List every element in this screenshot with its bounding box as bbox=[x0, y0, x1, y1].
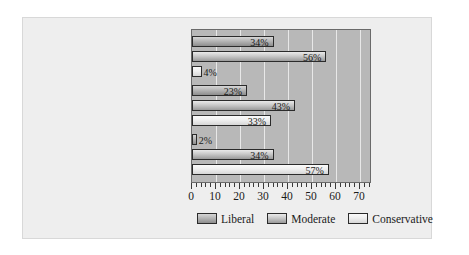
bar-value-label: 34% bbox=[250, 37, 268, 48]
bar-republican-party-activists-liberal: 2% bbox=[192, 134, 197, 145]
axis-tick bbox=[359, 183, 360, 189]
chart-legend: LiberalModerateConservative bbox=[197, 211, 433, 226]
bar-all-voters-conservative: 33% bbox=[192, 115, 271, 126]
axis-tick bbox=[282, 183, 283, 187]
axis-tick bbox=[229, 183, 230, 187]
axis-tick bbox=[258, 183, 259, 187]
axis-tick bbox=[316, 183, 317, 187]
axis-tick bbox=[301, 183, 302, 187]
axis-tick bbox=[234, 183, 235, 187]
axis-tick bbox=[364, 183, 365, 187]
axis-tick bbox=[340, 183, 341, 187]
axis-tick bbox=[210, 183, 211, 187]
axis-tick bbox=[287, 183, 288, 189]
axis-tick bbox=[239, 183, 240, 189]
legend-item-conservative[interactable]: Conservative bbox=[348, 213, 433, 225]
axis-tick bbox=[205, 183, 206, 187]
x-tick-label-0: 0 bbox=[188, 190, 194, 202]
x-tick-label-10: 10 bbox=[209, 190, 221, 202]
axis-tick bbox=[191, 183, 192, 189]
bar-value-label: 23% bbox=[224, 86, 242, 97]
axis-tick bbox=[225, 183, 226, 187]
axis-tick bbox=[349, 183, 350, 187]
bar-all-voters-liberal: 23% bbox=[192, 85, 247, 96]
bar-democratic-party-activists-liberal: 34% bbox=[192, 36, 274, 47]
x-tick-label-40: 40 bbox=[281, 190, 293, 202]
axis-tick bbox=[325, 183, 326, 187]
axis-tick bbox=[244, 183, 245, 187]
axis-tick bbox=[335, 183, 336, 189]
chart-figure: Democratic Party ActivistsAll VotersRepu… bbox=[0, 0, 469, 255]
axis-tick bbox=[253, 183, 254, 187]
axis-tick bbox=[268, 183, 269, 187]
x-tick-label-60: 60 bbox=[329, 190, 341, 202]
legend-swatch-liberal bbox=[197, 213, 217, 224]
bar-democratic-party-activists-moderate: 56% bbox=[192, 51, 326, 62]
axis-tick bbox=[273, 183, 274, 187]
bar-value-label: 34% bbox=[250, 150, 268, 161]
x-tick-label-30: 30 bbox=[257, 190, 269, 202]
axis-tick bbox=[369, 183, 370, 187]
legend-item-liberal[interactable]: Liberal bbox=[197, 213, 254, 225]
bar-value-label: 33% bbox=[248, 116, 266, 127]
plot-area: 34%56%4%23%43%33%2%34%57% bbox=[191, 29, 371, 183]
axis-tick bbox=[220, 183, 221, 187]
axis-tick bbox=[306, 183, 307, 187]
bar-republican-party-activists-conservative: 57% bbox=[192, 164, 329, 175]
bar-value-label: 2% bbox=[199, 135, 212, 146]
bar-value-label: 4% bbox=[204, 67, 217, 78]
x-axis-tick-labels: 010203040506070 bbox=[191, 190, 391, 204]
axis-tick bbox=[321, 183, 322, 187]
axis-tick bbox=[354, 183, 355, 187]
bar-all-voters-moderate: 43% bbox=[192, 100, 295, 111]
x-tick-label-50: 50 bbox=[305, 190, 317, 202]
axis-tick bbox=[201, 183, 202, 187]
legend-label-moderate: Moderate bbox=[291, 213, 335, 225]
category-axis-labels: Democratic Party ActivistsAll VotersRepu… bbox=[0, 0, 186, 255]
axis-tick bbox=[311, 183, 312, 189]
bar-value-label: 57% bbox=[305, 165, 323, 176]
axis-tick bbox=[330, 183, 331, 187]
axis-tick bbox=[263, 183, 264, 189]
axis-tick bbox=[196, 183, 197, 187]
x-axis-ticks bbox=[191, 183, 371, 189]
axis-tick bbox=[345, 183, 346, 187]
bar-value-label: 43% bbox=[272, 101, 290, 112]
bar-republican-party-activists-moderate: 34% bbox=[192, 149, 274, 160]
axis-tick bbox=[277, 183, 278, 187]
legend-swatch-moderate bbox=[267, 213, 287, 224]
axis-tick bbox=[215, 183, 216, 189]
gridline-70 bbox=[360, 30, 361, 182]
gridline-60 bbox=[336, 30, 337, 182]
legend-item-moderate[interactable]: Moderate bbox=[267, 213, 335, 225]
legend-swatch-conservative bbox=[348, 213, 368, 224]
x-tick-label-70: 70 bbox=[353, 190, 365, 202]
axis-tick bbox=[292, 183, 293, 187]
bar-value-label: 56% bbox=[303, 52, 321, 63]
legend-label-liberal: Liberal bbox=[221, 213, 254, 225]
axis-tick bbox=[297, 183, 298, 187]
x-tick-label-20: 20 bbox=[233, 190, 245, 202]
legend-label-conservative: Conservative bbox=[372, 213, 433, 225]
bar-democratic-party-activists-conservative: 4% bbox=[192, 66, 202, 77]
axis-tick bbox=[249, 183, 250, 187]
